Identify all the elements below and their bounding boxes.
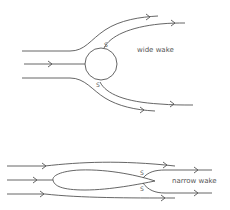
streamline-upper [7,162,175,166]
separation-point-bottom-label: S [96,81,100,88]
wide-wake-label: wide wake [137,46,174,54]
streamline-lower [7,194,175,198]
streamlined-body-diagram: S S narrow wake [7,162,217,201]
bluff-body-diagram: S S wide wake [22,14,193,113]
separated-streamline-top [104,23,185,48]
separation-point-top-label: S [104,41,108,48]
cylinder-body [85,48,117,80]
streamline-lower [22,78,155,111]
separated-streamline-bottom [100,82,193,105]
flow-separation-diagram: S S wide wake S S narrow wake [0,0,230,210]
separation-point-bottom-label: S [140,185,144,192]
narrow-wake-label: narrow wake [172,177,217,185]
separation-point-top-label: S [140,169,144,176]
arrow-icon [170,101,174,107]
